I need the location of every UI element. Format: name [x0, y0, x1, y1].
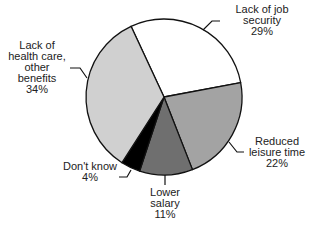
leader-line-job-security	[203, 21, 220, 30]
label-value: 4%	[60, 172, 120, 183]
label-leisure-time: Reduced leisure time 22%	[244, 136, 310, 169]
label-value: 11%	[140, 209, 190, 220]
label-dont-know: Don't know 4%	[60, 161, 120, 183]
label-health-care: Lack of health care, other benefits 34%	[4, 40, 70, 95]
label-value: 29%	[222, 26, 302, 37]
leader-line-health	[70, 68, 87, 78]
pie-slices	[86, 19, 242, 175]
label-lower-salary: Lower salary 11%	[140, 187, 190, 220]
label-value: 22%	[244, 158, 310, 169]
leader-line-leisure	[229, 142, 244, 152]
label-value: 34%	[4, 84, 70, 95]
label-job-security: Lack of job security 29%	[222, 4, 302, 37]
leader-line-dont-know	[119, 170, 131, 177]
